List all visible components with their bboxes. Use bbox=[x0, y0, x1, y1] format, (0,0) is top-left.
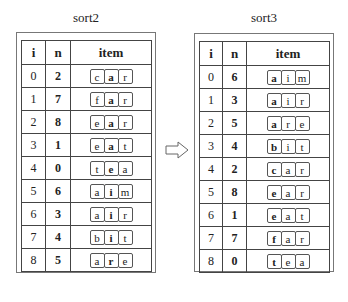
table-row: 31eat bbox=[22, 134, 152, 157]
word-boxes: air bbox=[90, 207, 133, 222]
word-boxes: far bbox=[267, 231, 310, 246]
char-box-sort-key: e bbox=[104, 161, 119, 176]
char-box: r bbox=[295, 93, 310, 108]
item-cell: are bbox=[71, 249, 152, 272]
char-box: a bbox=[281, 185, 296, 200]
char-box: f bbox=[90, 92, 105, 107]
char-box-sort-key: e bbox=[267, 208, 282, 223]
word-boxes: bit bbox=[267, 139, 310, 154]
item-cell: bit bbox=[71, 226, 152, 249]
item-cell: ear bbox=[71, 111, 152, 134]
word-boxes: car bbox=[267, 162, 310, 177]
char-box-sort-key: e bbox=[267, 185, 282, 200]
char-box-sort-key: a bbox=[267, 93, 282, 108]
table-row: 80tea bbox=[200, 250, 330, 273]
index-cell: 6 bbox=[200, 204, 223, 227]
index-cell: 5 bbox=[200, 181, 223, 204]
n-cell: 3 bbox=[223, 89, 247, 112]
table-row: 13air bbox=[200, 89, 330, 112]
index-cell: 3 bbox=[200, 135, 223, 158]
word-boxes: aim bbox=[90, 184, 133, 199]
char-box: a bbox=[90, 253, 105, 268]
n-cell: 2 bbox=[46, 65, 71, 88]
n-cell: 0 bbox=[46, 157, 71, 180]
char-box: m bbox=[118, 184, 133, 199]
item-cell: air bbox=[247, 89, 330, 112]
n-cell: 0 bbox=[223, 250, 247, 273]
n-cell: 6 bbox=[223, 66, 247, 89]
index-cell: 1 bbox=[200, 89, 223, 112]
index-cell: 7 bbox=[200, 227, 223, 250]
char-box: t bbox=[295, 139, 310, 154]
char-box: a bbox=[90, 184, 105, 199]
char-box: i bbox=[281, 70, 296, 85]
char-box: e bbox=[90, 138, 105, 153]
table-row: 63air bbox=[22, 203, 152, 226]
n-cell: 4 bbox=[223, 135, 247, 158]
item-cell: are bbox=[247, 112, 330, 135]
item-cell: bit bbox=[247, 135, 330, 158]
n-cell: 8 bbox=[223, 181, 247, 204]
table-row: 85are bbox=[22, 249, 152, 272]
table-row: 25are bbox=[200, 112, 330, 135]
n-cell: 8 bbox=[46, 111, 71, 134]
table-row: 61eat bbox=[200, 204, 330, 227]
table-row: 34bit bbox=[200, 135, 330, 158]
table-row: 77far bbox=[200, 227, 330, 250]
word-boxes: ear bbox=[90, 115, 133, 130]
char-box-sort-key: r bbox=[104, 253, 119, 268]
char-box: e bbox=[118, 253, 133, 268]
char-box: r bbox=[295, 231, 310, 246]
panel-title: sort2 bbox=[16, 10, 156, 26]
item-cell: aim bbox=[71, 180, 152, 203]
table-row: 74bit bbox=[22, 226, 152, 249]
sort3-table: i n item 06aim13air25are34bit42car58ear6… bbox=[199, 41, 330, 273]
char-box: r bbox=[281, 116, 296, 131]
word-boxes: air bbox=[267, 93, 310, 108]
char-box-sort-key: a bbox=[267, 70, 282, 85]
header-i: i bbox=[200, 42, 223, 66]
char-box: e bbox=[295, 116, 310, 131]
item-cell: eat bbox=[247, 204, 330, 227]
index-cell: 4 bbox=[22, 157, 46, 180]
word-boxes: tea bbox=[267, 254, 310, 269]
panel-sort3: sort3 i n item 06aim13air25are34bit42car… bbox=[194, 0, 334, 302]
right-hollow-arrow-icon bbox=[164, 140, 192, 160]
char-box: a bbox=[295, 254, 310, 269]
char-box: a bbox=[281, 208, 296, 223]
n-cell: 7 bbox=[46, 88, 71, 111]
char-box: r bbox=[118, 207, 133, 222]
table-row: 58ear bbox=[200, 181, 330, 204]
char-box: t bbox=[90, 161, 105, 176]
header-n: n bbox=[223, 42, 247, 66]
index-cell: 2 bbox=[200, 112, 223, 135]
char-box: a bbox=[90, 207, 105, 222]
word-boxes: bit bbox=[90, 230, 133, 245]
char-box: i bbox=[281, 139, 296, 154]
sort2-table: i n item 02car17far28ear31eat40tea56aim6… bbox=[21, 40, 152, 272]
item-cell: car bbox=[247, 158, 330, 181]
word-boxes: aim bbox=[267, 70, 310, 85]
header-i: i bbox=[22, 41, 46, 65]
char-box-sort-key: a bbox=[104, 69, 119, 84]
char-box: e bbox=[90, 115, 105, 130]
item-cell: far bbox=[247, 227, 330, 250]
char-box-sort-key: a bbox=[104, 92, 119, 107]
item-cell: eat bbox=[71, 134, 152, 157]
word-boxes: eat bbox=[90, 138, 133, 153]
char-box-sort-key: a bbox=[267, 116, 282, 131]
n-cell: 7 bbox=[223, 227, 247, 250]
char-box: c bbox=[90, 69, 105, 84]
word-boxes: are bbox=[90, 253, 133, 268]
n-cell: 3 bbox=[46, 203, 71, 226]
char-box: m bbox=[295, 70, 310, 85]
table-row: 42car bbox=[200, 158, 330, 181]
char-box-sort-key: a bbox=[104, 115, 119, 130]
char-box: e bbox=[281, 254, 296, 269]
panel-title: sort3 bbox=[194, 10, 334, 26]
panel-sort2: sort2 i n item 02car17far28ear31eat40tea… bbox=[16, 0, 156, 302]
n-cell: 5 bbox=[46, 249, 71, 272]
char-box: r bbox=[118, 69, 133, 84]
index-cell: 7 bbox=[22, 226, 46, 249]
header-item: item bbox=[71, 41, 152, 65]
